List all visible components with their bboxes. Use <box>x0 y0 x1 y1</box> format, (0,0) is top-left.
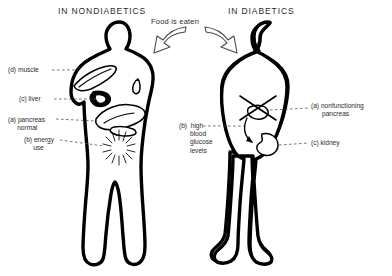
label-kidney: (c) kidney <box>311 139 340 147</box>
curved-arrow-left-icon <box>154 27 186 53</box>
label-liver: (c) liver <box>19 95 41 103</box>
diabetic-figure <box>203 22 309 264</box>
nondiabetic-figure <box>52 22 153 265</box>
medical-diagram: IN NONDIABETICS IN DIABETICS Food is eat… <box>0 0 392 276</box>
food-is-eaten-caption: Food is eaten <box>151 17 199 26</box>
label-pancreas-normal: (a) pancreas normal <box>8 116 45 132</box>
food-arrows-group <box>154 27 237 53</box>
curved-arrow-right-icon <box>205 27 237 53</box>
panel-title-diabetics: IN DIABETICS <box>228 6 295 16</box>
panel-title-nondiabetics: IN NONDIABETICS <box>58 6 146 16</box>
label-muscle: (d) muscle <box>8 66 39 74</box>
label-energy-use: (b) energy use <box>24 136 54 152</box>
label-high-blood-glucose-levels: (b) high blood glucose levels <box>179 122 213 155</box>
leader-kidney <box>279 143 309 145</box>
label-nonfunctioning-pancreas: (a) nonfunctioning pancreas <box>311 102 364 118</box>
